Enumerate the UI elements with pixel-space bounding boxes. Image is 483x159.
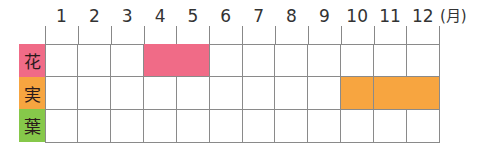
grid-cell	[341, 44, 374, 77]
month-label: 3	[111, 6, 144, 26]
header-divider	[341, 26, 342, 44]
month-label: 8	[275, 6, 308, 26]
grid-cell	[242, 77, 275, 110]
header-divider	[111, 26, 112, 44]
month-label: 2	[78, 6, 111, 26]
grid-cell	[78, 109, 111, 142]
grid-cell	[45, 44, 78, 77]
header-divider	[374, 26, 375, 44]
grid-cell	[275, 109, 308, 142]
header-divider	[144, 26, 145, 44]
header-divider	[45, 26, 46, 44]
row-label-0: 花	[19, 44, 45, 77]
grid-cell	[209, 77, 242, 110]
seasonal-calendar-chart: 123456789101112(月)花実葉	[0, 0, 483, 159]
month-label: 5	[176, 6, 209, 26]
grid-cell	[209, 44, 242, 77]
month-label: 6	[209, 6, 242, 26]
grid-cell	[275, 44, 308, 77]
grid-cell	[406, 77, 439, 110]
grid-cell	[341, 109, 374, 142]
grid-cell	[374, 109, 407, 142]
header-divider	[78, 26, 79, 44]
header-divider	[176, 26, 177, 44]
grid-cell	[406, 109, 439, 142]
grid-cell	[308, 44, 341, 77]
month-label: 7	[242, 6, 275, 26]
month-label: 1	[45, 6, 78, 26]
grid-cell	[78, 44, 111, 77]
month-label: 11	[374, 6, 407, 26]
grid-cell	[176, 109, 209, 142]
header-divider	[242, 26, 243, 44]
grid-cell	[406, 44, 439, 77]
row-label-1: 実	[19, 77, 45, 110]
month-label: 9	[308, 6, 341, 26]
grid-cell	[209, 109, 242, 142]
grid-cell	[111, 109, 144, 142]
header-divider	[209, 26, 210, 44]
grid-cell	[308, 109, 341, 142]
grid-cell	[374, 44, 407, 77]
grid-cell	[111, 77, 144, 110]
grid-cell	[45, 77, 78, 110]
grid-cell	[78, 77, 111, 110]
row-label-2: 葉	[19, 109, 45, 142]
grid-cell	[144, 77, 177, 110]
grid-cell	[144, 44, 177, 77]
grid-cell	[45, 109, 78, 142]
grid-cell	[176, 77, 209, 110]
header-divider	[439, 26, 440, 44]
month-label: 12	[406, 6, 439, 26]
grid-cell	[144, 109, 177, 142]
grid-cell	[308, 77, 341, 110]
grid-cell	[374, 77, 407, 110]
grid-cell	[176, 44, 209, 77]
month-label: 4	[144, 6, 177, 26]
month-label: 10	[341, 6, 374, 26]
header-divider	[406, 26, 407, 44]
grid-cell	[242, 109, 275, 142]
header-divider	[275, 26, 276, 44]
grid-cell	[341, 77, 374, 110]
unit-label: (月)	[440, 6, 467, 26]
grid-cell	[275, 77, 308, 110]
grid-cell	[242, 44, 275, 77]
header-divider	[308, 26, 309, 44]
grid-cell	[111, 44, 144, 77]
